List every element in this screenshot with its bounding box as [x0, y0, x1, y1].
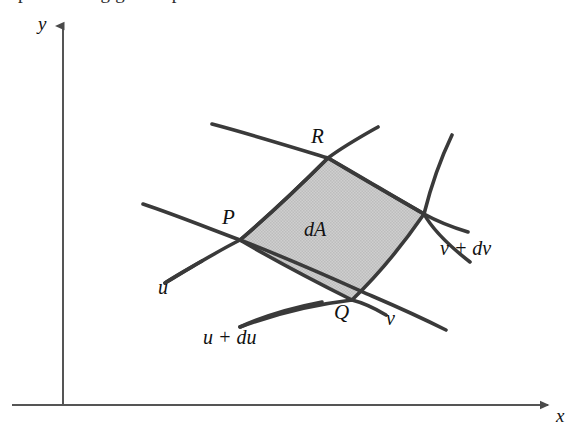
x-axis-label: x	[556, 406, 564, 425]
figure-canvas: p u t n a n g g e n e p	[0, 0, 581, 438]
curve-label-v-plus-dv: v + dv	[440, 238, 491, 258]
point-label-Q: Q	[334, 302, 349, 323]
y-axis-label: y	[38, 14, 46, 33]
curve-u-leg	[165, 261, 202, 283]
curve-label-u-plus-du: u + du	[203, 327, 257, 347]
point-label-P: P	[222, 207, 235, 228]
curve-label-v: v	[386, 308, 395, 328]
point-label-R: R	[311, 126, 324, 147]
curve-label-u: u	[158, 277, 168, 297]
area-element-label: dA	[304, 219, 326, 239]
diagram-svg	[0, 0, 581, 438]
